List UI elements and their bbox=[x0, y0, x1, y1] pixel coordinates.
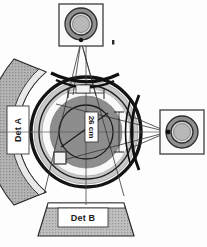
schematic-svg: Det A Det B bbox=[0, 0, 207, 247]
right-source-core bbox=[174, 124, 191, 141]
top-source-core bbox=[73, 16, 90, 33]
det-a-label: Det A bbox=[13, 118, 23, 142]
alignment-marker-dot bbox=[112, 40, 114, 45]
detector-b-group[interactable]: Det B bbox=[38, 203, 134, 236]
figure-canvas: Det A Det B bbox=[0, 0, 207, 247]
sample-cell bbox=[54, 152, 66, 164]
top-focal-point bbox=[79, 38, 83, 42]
right-focal-point bbox=[166, 130, 171, 135]
det-b-label: Det B bbox=[71, 213, 96, 223]
dimension-label: 26 cm bbox=[87, 116, 96, 139]
